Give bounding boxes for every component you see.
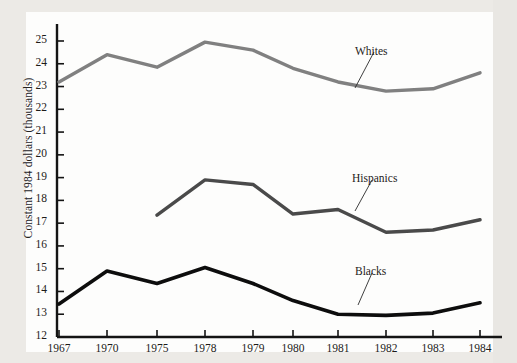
x-tick-label: 1978	[182, 342, 228, 354]
y-tick-label: 18	[25, 192, 47, 204]
series-label-whites: Whites	[355, 45, 388, 57]
x-tick-label: 1982	[363, 342, 409, 354]
y-tick-label: 16	[25, 238, 47, 250]
x-tick-label: 1983	[410, 342, 456, 354]
y-tick-label: 25	[25, 33, 47, 45]
line-chart	[0, 0, 517, 363]
y-tick-label: 14	[25, 283, 47, 295]
annotation-leader-line	[358, 273, 372, 305]
annotation-leader-line	[355, 52, 374, 88]
y-tick-label: 15	[25, 261, 47, 273]
y-tick-label: 22	[25, 101, 47, 113]
y-tick-label: 21	[25, 124, 47, 136]
x-tick-label: 1967	[36, 342, 82, 354]
y-tick-label: 19	[25, 170, 47, 182]
chart-series	[59, 42, 480, 315]
y-tick-label: 17	[25, 215, 47, 227]
y-tick-label: 12	[25, 329, 47, 341]
y-tick-label: 23	[25, 79, 47, 91]
series-label-hispanics: Hispanics	[352, 172, 397, 184]
series-line-whites	[59, 42, 480, 91]
series-line-hispanics	[157, 180, 480, 232]
chart-axes	[57, 24, 502, 337]
x-tick-label: 1975	[134, 342, 180, 354]
figure-page: Constant 1984 dollars (thousands) 121314…	[0, 0, 517, 363]
x-tick-label: 1970	[84, 342, 130, 354]
x-tick-label: 1984	[457, 342, 503, 354]
annotation-leader-line	[355, 180, 372, 211]
x-tick-label: 1981	[315, 342, 361, 354]
series-label-blacks: Blacks	[355, 265, 386, 277]
series-line-blacks	[59, 268, 480, 316]
y-tick-label: 24	[25, 56, 47, 68]
y-tick-label: 20	[25, 147, 47, 159]
y-tick-label: 13	[25, 306, 47, 318]
x-tick-label: 1980	[270, 342, 316, 354]
